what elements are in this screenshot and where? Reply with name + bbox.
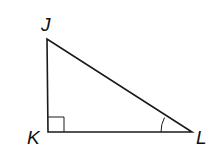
triangle-diagram: J K L — [0, 0, 224, 148]
vertex-label-k: K — [27, 127, 41, 148]
vertex-label-j: J — [40, 14, 51, 35]
vertex-label-l: L — [196, 127, 207, 148]
right-angle-marker-k — [48, 117, 64, 132]
angle-arc-l — [161, 118, 165, 133]
triangle-jkl — [47, 39, 192, 132]
